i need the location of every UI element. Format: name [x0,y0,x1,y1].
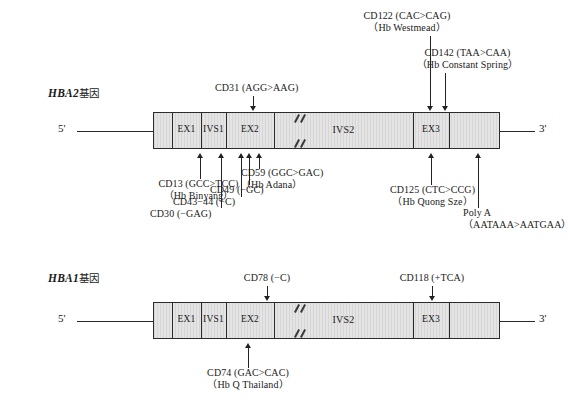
arrow-head-cd118-icon [429,296,435,301]
gene-name-suffix-hba1: 基因 [79,272,99,284]
divider-exon3-utr3-hba2 [449,112,450,149]
five-prime-line-hba1 [77,321,153,322]
gene-label-hba1: HBA1基因 [48,270,99,285]
annotation-cd59-hba2: CD59 (GGC>GAC) （Hb Adana） [241,167,323,191]
annotation-cd74-hba1: CD74 (GAC>CAC) （Hb Q Thailand） [162,367,334,391]
five-prime-label-hba2: 5' [58,122,65,134]
segment-label-intron1-hba1: IVS1 [201,315,226,325]
segment-label-exon2-hba2: EX2 [226,125,274,135]
arrow-head-cd142-icon [442,106,448,111]
segment-label-intron1-hba2: IVS1 [201,125,226,135]
three-prime-line-hba2 [500,131,535,132]
arrow-stem-cd13 [200,157,201,179]
arrow-head-cd122-icon [427,106,433,111]
arrow-head-cd31-icon [250,106,256,111]
gene-name-hba2: HBA2 [48,87,79,99]
gene-label-hba2: HBA2基因 [48,85,99,100]
five-prime-label-hba1: 5' [58,312,65,324]
annotation-cd30-hba2: CD30 (−GAG) [150,208,211,220]
gene-name-suffix-hba2: 基因 [79,87,99,99]
gene-structure-diagram: HBA2基因 5' EX1 IVS1 EX2 IVS2 EX3 3' CD31 … [0,0,587,408]
arrow-head-cd78-icon [264,296,270,301]
arrow-stem-cd142 [445,73,446,107]
segment-label-exon3-hba2: EX3 [413,125,449,135]
annotation-cd43-44-hba2: CD43−44 (−C) [173,196,235,208]
annotation-cd142-hba2: CD142 (TAA>CAA) （Hb Constant Spring） [360,47,575,71]
segment-label-exon3-hba1: EX3 [413,315,449,325]
five-prime-line-hba2 [77,131,153,132]
annotation-cd122-hba2: CD122 (CAC>CAG) （Hb Westmead） [327,10,487,34]
three-prime-label-hba2: 3' [539,122,546,134]
segment-label-exon1-hba1: EX1 [172,315,201,325]
three-prime-label-hba1: 3' [539,312,546,324]
arrow-stem-cd74 [248,347,249,368]
annotation-cd125-hba2: CD125 (CTC>CCG) （Hb Quong Sze） [345,184,520,208]
gene-name-hba1: HBA1 [48,272,79,284]
annotation-cd31-hba2: CD31 (AGG>AAG) [215,82,298,94]
three-prime-line-hba1 [500,321,535,322]
segment-label-exon1-hba2: EX1 [172,125,201,135]
arrow-stem-cd125 [431,157,432,185]
arrow-stem-polya [478,157,479,208]
annotation-cd78-hba1: CD78 (−C) [212,272,322,284]
segment-label-exon2-hba1: EX2 [226,315,274,325]
divider-exon3-utr3-hba1 [449,302,450,339]
annotation-polya-hba2: Poly A （AATAAA>AATGAA） [463,207,572,231]
segment-label-intron2-hba2: IVS2 [274,125,413,135]
annotation-cd118-hba1: CD118 (+TCA) [377,272,487,284]
segment-label-intron2-hba1: IVS2 [274,315,413,325]
